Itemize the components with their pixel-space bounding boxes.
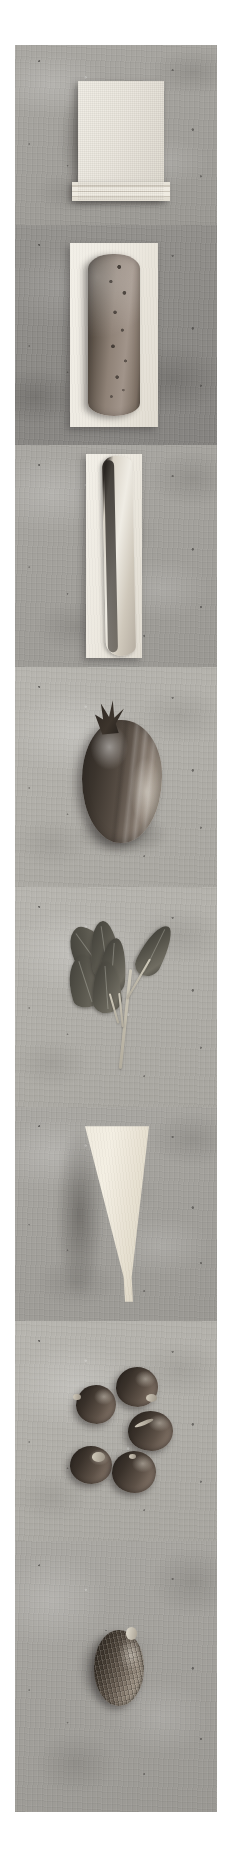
nutmeg (94, 1630, 145, 1706)
stone-surface (15, 1321, 217, 1541)
chestnut-tip (92, 1452, 105, 1462)
ingredient-photo-strip: folded white linen napkin fresh sausage … (15, 45, 217, 1812)
sage-leaf (131, 920, 177, 980)
photo-panel-nutmeg: whole nutmeg (15, 1541, 217, 1812)
photo-strip-page: folded white linen napkin fresh sausage … (0, 0, 232, 1856)
photo-panel-sage: sprig of fresh sage (15, 887, 217, 1107)
chestnut (70, 1446, 112, 1483)
nutmeg-surface-texture (94, 1630, 145, 1706)
chestnut-tip (129, 1454, 136, 1459)
sausage-pepper-specks (88, 254, 141, 417)
lardo-strip (102, 456, 136, 656)
photo-panel-onion: whole brown onion (15, 667, 217, 887)
chestnut (112, 1451, 156, 1493)
chestnut-tip (134, 1417, 154, 1428)
photo-panel-lardo: strip of lardo on parchment paper (15, 445, 217, 667)
photo-panel-chestnuts: five chestnuts (15, 1321, 217, 1541)
photo-panel-cheese: wedge of hard cheese (15, 1107, 217, 1321)
chestnut-tip (73, 1394, 81, 1400)
nutmeg-light-cap (126, 1627, 137, 1639)
photo-panel-sausage: fresh sausage on parchment paper (15, 225, 217, 445)
sage-sprig (68, 918, 181, 1090)
chestnut (128, 1411, 172, 1451)
sausage (88, 254, 141, 417)
chestnut (76, 1385, 116, 1425)
napkin-folded-hem (72, 182, 169, 201)
photo-panel-napkin: folded white linen napkin (15, 45, 217, 225)
chestnut (116, 1367, 158, 1407)
chestnut-tip (146, 1394, 157, 1402)
linen-napkin (78, 81, 165, 200)
